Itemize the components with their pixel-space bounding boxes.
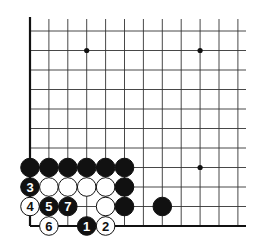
black-stone-icon bbox=[40, 158, 59, 177]
black-stone bbox=[21, 158, 40, 177]
move-number: 4 bbox=[26, 199, 34, 214]
star-point-icon bbox=[198, 48, 203, 53]
stones: 3457612 bbox=[21, 158, 172, 235]
black-stone-icon bbox=[115, 158, 134, 177]
black-stone bbox=[59, 158, 78, 177]
black-stone-icon bbox=[21, 158, 40, 177]
white-stone bbox=[59, 178, 78, 197]
black-stone bbox=[96, 158, 115, 177]
white-stone bbox=[77, 178, 96, 197]
move-number: 2 bbox=[102, 219, 109, 234]
black-stone: 7 bbox=[59, 197, 78, 216]
white-stone-icon bbox=[96, 178, 115, 197]
black-stone-icon bbox=[153, 197, 172, 216]
star-point-icon bbox=[198, 165, 203, 170]
white-stone-icon bbox=[96, 197, 115, 216]
black-stone: 5 bbox=[40, 197, 59, 216]
black-stone bbox=[115, 197, 134, 216]
white-stone-icon bbox=[77, 178, 96, 197]
white-stone-icon bbox=[40, 178, 59, 197]
white-stone: 2 bbox=[96, 217, 115, 236]
black-stone-icon bbox=[77, 158, 96, 177]
black-stone-icon bbox=[96, 158, 115, 177]
move-number: 5 bbox=[45, 199, 52, 214]
black-stone bbox=[77, 158, 96, 177]
move-number: 1 bbox=[83, 219, 90, 234]
black-stone bbox=[153, 197, 172, 216]
white-stone bbox=[40, 178, 59, 197]
white-stone: 6 bbox=[40, 217, 59, 236]
white-stone: 4 bbox=[21, 197, 40, 216]
black-stone bbox=[115, 158, 134, 177]
go-board: 3457612 bbox=[0, 0, 266, 249]
white-stone bbox=[96, 197, 115, 216]
star-point-icon bbox=[84, 48, 89, 53]
black-stone-icon bbox=[59, 158, 78, 177]
black-stone-icon bbox=[115, 178, 134, 197]
black-stone bbox=[115, 178, 134, 197]
move-number: 3 bbox=[26, 180, 33, 195]
black-stone: 3 bbox=[21, 178, 40, 197]
black-stone bbox=[40, 158, 59, 177]
white-stone-icon bbox=[59, 178, 78, 197]
black-stone-icon bbox=[115, 197, 134, 216]
black-stone: 1 bbox=[77, 217, 96, 236]
move-number: 6 bbox=[45, 219, 52, 234]
white-stone bbox=[96, 178, 115, 197]
move-number: 7 bbox=[64, 199, 71, 214]
